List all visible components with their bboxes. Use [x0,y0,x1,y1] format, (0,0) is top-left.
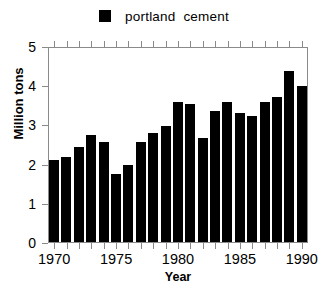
x-tick-1987 [265,243,266,249]
bar-1985 [235,113,245,242]
x-tick-1977 [141,243,142,249]
x-tick-top-1976 [128,41,129,47]
x-tick-top-1978 [153,41,154,47]
x-tick-top-1977 [141,41,142,47]
bar-1982 [198,138,208,242]
x-tick-label-1985: 1985 [215,251,265,267]
x-tick-top-1989 [289,41,290,47]
x-tick-label-1970: 1970 [29,251,79,267]
bar-1976 [123,165,133,242]
x-tick-1972 [79,243,80,249]
x-tick-1984 [228,243,229,249]
x-tick-1970 [54,243,55,249]
bar-1974 [99,142,109,242]
bar-series-portland-cement [49,48,307,242]
x-tick-top-1981 [190,41,191,47]
x-tick-1980 [178,243,179,249]
x-tick-1981 [190,243,191,249]
x-tick-top-1986 [252,41,253,47]
y-axis-label: Million tons [11,34,26,174]
x-tick-top-1990 [302,41,303,47]
bar-1978 [148,133,158,242]
x-tick-top-1984 [228,41,229,47]
x-tick-1979 [166,243,167,249]
x-tick-top-1972 [79,41,80,47]
x-tick-1983 [215,243,216,249]
bar-1977 [136,142,146,242]
x-tick-top-1987 [265,41,266,47]
y-tick-label-2: 2 [0,158,36,172]
x-tick-1973 [91,243,92,249]
y-tick-label-3: 3 [0,118,36,132]
chart-figure: portland cement Million tons 5 4 3 2 1 0… [0,0,328,292]
bar-1983 [210,111,220,242]
x-tick-top-1982 [203,41,204,47]
x-tick-1985 [240,243,241,249]
plot-area [48,47,308,243]
x-tick-top-1973 [91,41,92,47]
y-tick-label-0: 0 [0,236,36,250]
x-tick-top-1970 [54,41,55,47]
bar-1984 [222,102,232,242]
bar-1973 [86,135,96,242]
bar-1979 [161,126,171,242]
x-tick-1989 [289,243,290,249]
chart-legend: portland cement [0,4,328,28]
bar-1971 [61,157,71,242]
x-tick-1975 [116,243,117,249]
x-tick-1976 [128,243,129,249]
x-tick-label-1975: 1975 [91,251,141,267]
x-tick-top-1971 [67,41,68,47]
x-tick-1971 [67,243,68,249]
bar-1989 [284,71,294,242]
x-tick-1978 [153,243,154,249]
legend-swatch-portland-cement [99,10,111,22]
x-tick-top-1985 [240,41,241,47]
bar-1980 [173,102,183,242]
x-tick-top-1979 [166,41,167,47]
x-axis-label: Year [48,270,308,284]
bar-1987 [260,102,270,242]
legend-label-portland-cement: portland cement [125,9,229,24]
y-tick-label-5: 5 [0,40,36,54]
bar-1972 [74,147,84,242]
x-tick-top-1983 [215,41,216,47]
x-tick-top-1988 [277,41,278,47]
y-tick-label-1: 1 [0,197,36,211]
bar-1990 [297,86,307,242]
y-tick-0 [42,243,48,244]
x-tick-label-1990: 1990 [277,251,327,267]
bar-1988 [272,97,282,242]
x-tick-top-1974 [104,41,105,47]
bar-1975 [111,174,121,242]
y-tick-label-4: 4 [0,79,36,93]
x-tick-1988 [277,243,278,249]
x-tick-top-1975 [116,41,117,47]
bar-1970 [49,160,59,242]
x-tick-1974 [104,243,105,249]
x-tick-1990 [302,243,303,249]
bar-1986 [247,116,257,242]
x-tick-1986 [252,243,253,249]
bar-1981 [185,104,195,242]
x-tick-label-1980: 1980 [153,251,203,267]
x-tick-1982 [203,243,204,249]
x-tick-top-1980 [178,41,179,47]
